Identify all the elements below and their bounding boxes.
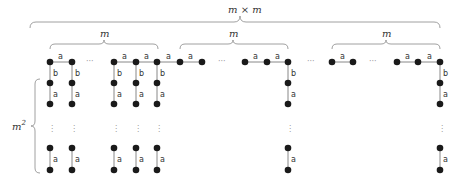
svg-text:a: a [53, 90, 58, 99]
svg-text:a: a [405, 52, 410, 61]
grid-graph-diagram: m × m m m m m2 [0, 0, 460, 189]
svg-text:···: ··· [307, 57, 315, 66]
svg-text:a: a [75, 155, 80, 164]
svg-text:a: a [443, 90, 448, 99]
nodes [47, 59, 444, 174]
vertical-edge-labels-upper: a a a a a a a [53, 90, 448, 99]
svg-text:⋮: ⋮ [438, 124, 446, 133]
svg-text:a: a [75, 90, 80, 99]
svg-text:⋮: ⋮ [155, 124, 163, 133]
group-brace-label-2: m [229, 28, 238, 39]
side-brace-label: m2 [12, 119, 26, 132]
svg-text:a: a [117, 90, 122, 99]
svg-text:a: a [139, 155, 144, 164]
svg-text:a: a [139, 90, 144, 99]
svg-text:a: a [291, 155, 296, 164]
svg-text:b: b [75, 69, 80, 78]
svg-text:⋮: ⋮ [112, 124, 120, 133]
svg-text:⋮: ⋮ [48, 124, 56, 133]
svg-text:a: a [427, 52, 432, 61]
vertical-edge-labels-lower: a a a a a a a [53, 155, 448, 164]
svg-text:a: a [160, 155, 165, 164]
vertical-ellipses: ⋮ ⋮ ⋮ ⋮ ⋮ ⋮ ⋮ [48, 124, 446, 133]
svg-text:b: b [160, 69, 165, 78]
group-brace-3 [332, 40, 440, 49]
svg-text:···: ··· [218, 57, 226, 66]
svg-text:···: ··· [369, 57, 377, 66]
svg-text:⋮: ⋮ [286, 124, 294, 133]
svg-text:a: a [117, 155, 122, 164]
group-brace-2 [180, 40, 288, 49]
svg-text:a: a [275, 52, 280, 61]
svg-text:a: a [144, 52, 149, 61]
svg-text:b: b [139, 69, 144, 78]
side-brace [31, 79, 40, 173]
b-edge-labels: b b b b b b b [53, 69, 448, 78]
svg-text:a: a [188, 52, 193, 61]
group-brace-1 [50, 40, 158, 49]
svg-text:···: ··· [86, 57, 94, 66]
edges [50, 62, 440, 170]
svg-text:a: a [58, 52, 63, 61]
svg-text:b: b [291, 69, 296, 78]
svg-text:a: a [443, 155, 448, 164]
svg-text:b: b [117, 69, 122, 78]
svg-text:a: a [122, 52, 127, 61]
svg-text:⋮: ⋮ [134, 124, 142, 133]
svg-text:a: a [53, 155, 58, 164]
svg-text:a: a [253, 52, 258, 61]
group-brace-label-1: m [100, 28, 109, 39]
top-brace [30, 16, 440, 28]
svg-text:⋮: ⋮ [70, 124, 78, 133]
svg-text:b: b [53, 69, 58, 78]
svg-text:a: a [166, 52, 171, 61]
svg-text:a: a [340, 52, 345, 61]
svg-text:a: a [160, 90, 165, 99]
svg-text:a: a [291, 90, 296, 99]
top-brace-label: m × m [228, 4, 262, 15]
group-brace-label-3: m [382, 28, 391, 39]
svg-text:b: b [443, 69, 448, 78]
